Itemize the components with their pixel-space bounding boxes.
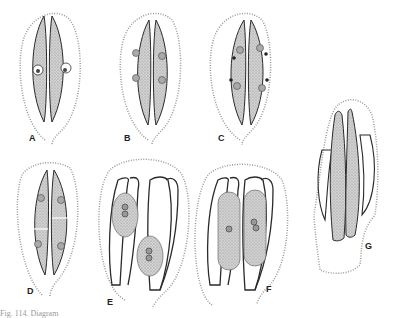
panel-label-f: F: [266, 284, 272, 294]
panel-label-e: E: [107, 297, 113, 307]
panel-label-b: B: [124, 133, 131, 143]
panel-label-c: C: [218, 133, 225, 143]
panel-label-a: A: [29, 133, 36, 143]
panel-c: [210, 13, 270, 145]
panel-a: [20, 13, 80, 145]
panel-d: [17, 163, 77, 296]
panel-e: [99, 159, 189, 308]
panel-f: [195, 164, 288, 305]
panel-label-d: D: [27, 286, 34, 296]
figure-caption: Fig. 114. Diagram: [0, 309, 58, 318]
panel-b: [120, 13, 180, 145]
panel-label-g: G: [365, 241, 372, 251]
